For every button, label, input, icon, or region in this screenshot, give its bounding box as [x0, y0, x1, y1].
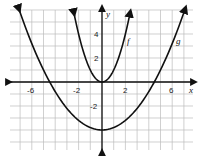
x-axis-label: x — [188, 85, 193, 95]
curve-f-label: f — [127, 36, 131, 46]
tick-x-2: 2 — [123, 86, 128, 95]
tick-y-2: 2 — [94, 54, 99, 63]
tick-x-neg2: -2 — [73, 86, 81, 95]
coordinate-plane: -6 -2 2 6 4 2 -2 x y f g — [0, 0, 199, 157]
y-axis-label: y — [105, 9, 110, 19]
tick-y-neg2: -2 — [90, 102, 98, 111]
curve-g-label: g — [176, 36, 181, 46]
tick-y-4: 4 — [94, 30, 99, 39]
tick-x-neg6: -6 — [27, 86, 35, 95]
tick-x-6: 6 — [169, 86, 174, 95]
